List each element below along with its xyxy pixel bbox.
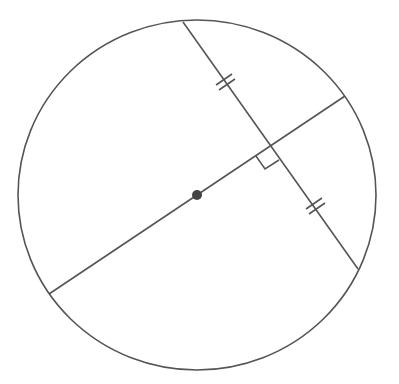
right-angle-marker (256, 156, 279, 169)
center-point (192, 190, 202, 200)
chord-line (183, 22, 358, 269)
geometry-diagram (0, 0, 399, 384)
